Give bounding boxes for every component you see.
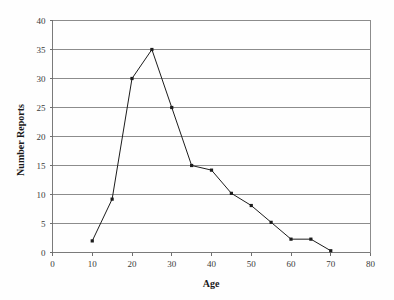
chart-background — [0, 0, 394, 300]
x-tick-label-70: 70 — [326, 259, 336, 269]
x-tick-label-30: 30 — [167, 259, 177, 269]
x-tick-label-60: 60 — [287, 259, 297, 269]
data-point-age-25 — [150, 48, 153, 51]
y-tick-label-40: 40 — [37, 16, 47, 26]
y-tick-label-0: 0 — [41, 248, 46, 258]
data-point-age-65 — [309, 238, 312, 241]
data-point-age-70 — [329, 249, 332, 252]
data-point-age-20 — [130, 77, 133, 80]
y-tick-label-30: 30 — [37, 74, 47, 84]
x-tick-label-0: 0 — [50, 259, 55, 269]
data-point-age-15 — [111, 198, 114, 201]
x-tick-label-80: 80 — [366, 259, 376, 269]
x-tick-label-10: 10 — [88, 259, 98, 269]
y-tick-label-5: 5 — [41, 219, 46, 229]
y-tick-label-25: 25 — [37, 103, 47, 113]
x-axis-title: Age — [203, 278, 220, 289]
line-chart: 01020304050607080 0510152025303540 Age N… — [0, 0, 394, 300]
x-tick-label-50: 50 — [247, 259, 257, 269]
chart-container: 01020304050607080 0510152025303540 Age N… — [0, 0, 394, 300]
data-point-age-40 — [210, 169, 213, 172]
data-point-age-50 — [250, 204, 253, 207]
x-tick-label-20: 20 — [128, 259, 138, 269]
y-axis-title: Number Reports — [15, 104, 26, 176]
data-point-age-10 — [91, 239, 94, 242]
y-tick-label-15: 15 — [37, 161, 47, 171]
data-point-age-55 — [270, 221, 273, 224]
data-point-age-60 — [289, 238, 292, 241]
y-tick-label-10: 10 — [37, 190, 47, 200]
data-point-age-45 — [230, 192, 233, 195]
data-point-age-30 — [170, 106, 173, 109]
data-point-age-35 — [190, 164, 193, 167]
y-tick-label-20: 20 — [37, 132, 47, 142]
x-tick-label-40: 40 — [207, 259, 217, 269]
y-tick-label-35: 35 — [37, 45, 47, 55]
